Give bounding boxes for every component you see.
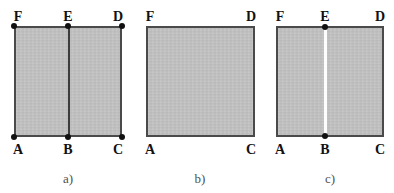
panel-c-label-a: A — [275, 143, 285, 157]
panel-c-rectangle — [276, 26, 384, 137]
panel-c-caption: c) — [325, 172, 335, 185]
panel-c-label-e: E — [320, 10, 329, 24]
panel-c-label-b: B — [320, 143, 329, 157]
panel-c-divider-light — [324, 28, 327, 135]
panel-c-label-c: C — [375, 143, 385, 157]
figure-three-panel-rectangles: FEDABCa)FDACb)FEDABCc) — [0, 0, 394, 193]
panel-c-label-f: F — [276, 10, 285, 24]
panel-c: FEDABCc) — [0, 0, 394, 193]
panel-c-label-d: D — [375, 10, 385, 24]
panel-c-vertex-B-dot — [322, 133, 328, 139]
panel-c-vertex-E-dot — [322, 24, 328, 30]
